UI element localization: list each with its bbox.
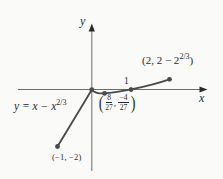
comma: , [114,99,117,111]
equation-label: y = x − x2/3 [14,101,67,113]
origin-dot [89,87,94,92]
fraction-8-27: 8 27 [105,94,113,111]
point-minus1-minus2-dot [55,144,60,149]
tick-1-label: 1 [124,77,129,87]
close-paren: ) [131,94,136,111]
x-axis-label: x [199,92,204,104]
fraction-minus4-27: −4 27 [118,94,129,111]
point-2-dot [167,77,172,82]
y-axis-arrow-icon [89,24,95,32]
function-plot-figure: y x (2, 2 − 22/3) 1 ( 8 27 , −4 27 ) y =… [0,0,223,179]
open-paren: ( [99,94,104,111]
point-minus1-minus2-label: (−1, −2) [52,153,82,162]
local-min-label: ( 8 27 , −4 27 ) [98,94,136,111]
y-axis-label: y [80,15,85,27]
point-2-label: (2, 2 − 22/3) [142,55,193,66]
plot-canvas [0,0,223,179]
